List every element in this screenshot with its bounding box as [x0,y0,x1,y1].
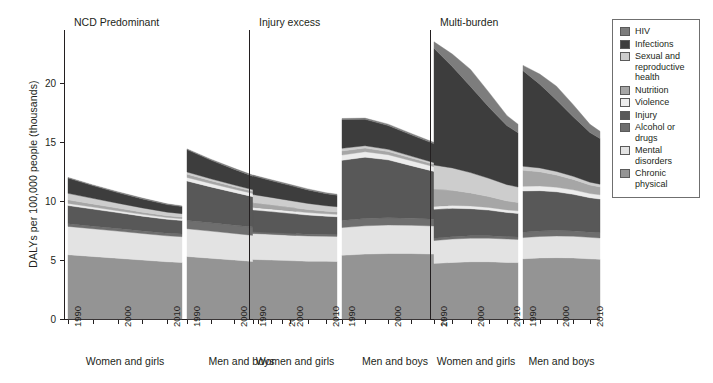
legend-swatch [620,27,630,36]
legend-item[interactable]: Mental disorders [620,145,693,166]
x-tick-mark [290,320,291,324]
x-tick-mark [187,320,188,324]
legend-swatch [620,98,630,107]
x-tick-label: 2000 [560,306,571,327]
legend-label: Chronic physical [635,168,693,189]
area-band [342,157,448,220]
area-band [434,205,518,213]
legend-item[interactable]: Violence [620,97,693,108]
panel-title: NCD Predominant [74,16,159,28]
x-tick-mark [308,320,309,324]
group-label: Men and boys [529,355,595,367]
area-band [187,172,296,199]
area-band [187,221,296,239]
group-label: Women and girls [86,355,165,367]
legend-label: Nutrition [635,85,669,96]
legend-swatch [620,52,630,61]
area-band [523,166,600,187]
area-band [187,149,296,188]
area-band [434,208,518,238]
x-tick-mark [489,320,490,324]
x-tick-mark [411,320,412,324]
area-band [253,207,337,216]
area-band [253,232,337,237]
y-tick-label: 5 [34,255,56,266]
x-tick-mark [326,320,327,324]
x-tick-mark [540,320,541,324]
legend-item[interactable]: Sexual and reproductive health [620,51,693,83]
legend-item[interactable]: HIV [620,26,693,37]
legend-swatch [620,111,630,120]
legend-swatch [620,40,630,49]
legend-label: HIV [635,26,650,37]
y-tick-label: 20 [34,78,56,89]
area-band [342,119,448,165]
x-tick-label: 1990 [257,306,268,327]
x-tick-mark [507,320,508,324]
area-band [187,229,296,264]
area-band [68,178,182,214]
area-band [523,191,600,233]
x-tick-mark [93,320,94,324]
legend-item[interactable]: Nutrition [620,85,693,96]
legend-label: Infections [635,39,674,50]
area-band [523,236,600,259]
area-band [253,176,337,207]
area-band [434,48,518,187]
x-tick-mark [234,320,235,324]
area-band [342,225,448,255]
x-tick-mark [434,320,435,324]
x-tick-mark [118,320,119,324]
area-band [434,42,518,133]
area-band [523,186,600,199]
x-tick-label: 1990 [438,306,449,327]
area-band [68,200,182,219]
x-tick-mark [365,320,366,324]
area-band [253,195,337,212]
panel-title: Multi-burden [440,16,498,28]
x-tick-label: 2000 [475,306,486,327]
x-tick-label: 2000 [294,306,305,327]
group-label: Women and girls [437,355,516,367]
area-band [253,175,337,195]
legend-item[interactable]: Alcohol or drugs [620,122,693,143]
legend-swatch [620,123,630,132]
x-tick-mark [557,320,558,324]
legend: HIVInfectionsSexual and reproductive hea… [612,19,700,198]
area-band [68,177,182,206]
x-tick-label: 1990 [346,306,357,327]
panel-title: Injury excess [259,16,320,28]
figure-root: DALYs per 100,000 people (thousands) 051… [0,0,713,383]
legend-label: Violence [635,97,669,108]
x-tick-label: 2010 [511,306,522,327]
x-tick-mark [142,320,143,324]
x-tick-mark [471,320,472,324]
y-tick-label: 15 [34,137,56,148]
area-band [523,65,600,138]
legend-label: Alcohol or drugs [635,122,693,143]
x-tick-label: 1990 [72,306,83,327]
x-tick-mark [68,320,69,324]
panel-y-axis-line [430,30,431,320]
legend-item[interactable]: Infections [620,39,693,50]
group-label: Men and boys [362,355,428,367]
area-band [187,177,296,204]
x-tick-mark [573,320,574,324]
panel-y-axis-line [249,30,250,320]
x-tick-mark [342,320,343,324]
legend-item[interactable]: Chronic physical [620,168,693,189]
x-tick-mark [253,320,254,324]
x-tick-mark [271,320,272,324]
x-tick-label: 1990 [191,306,202,327]
area-band [523,231,600,238]
legend-label: Mental disorders [635,145,693,166]
area-band [434,165,518,203]
area-band [68,226,182,262]
area-band [523,71,600,184]
area-band [253,203,337,215]
group-label: Women and girls [256,355,335,367]
legend-swatch [620,146,630,155]
area-band [68,193,182,217]
y-tick-label: 0 [34,314,56,325]
legend-item[interactable]: Injury [620,110,693,121]
